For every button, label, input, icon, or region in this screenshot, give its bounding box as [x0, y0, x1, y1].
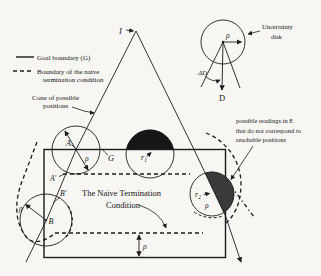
naive-title-line2: Condition: [106, 200, 141, 210]
r2-rho-label: ρ: [204, 201, 209, 210]
legend-naive-label-line2: termination condition: [43, 76, 104, 84]
delta-d-label: ΔD: [197, 69, 207, 77]
naive-title-leader-arrow: [139, 205, 166, 228]
r1-label: r1: [141, 153, 147, 163]
diagram-canvas: Goal boundary (G) Boundary of the naive …: [0, 0, 321, 276]
bottom-rho-label: ρ: [142, 242, 147, 251]
a-prime-label: A': [49, 174, 57, 183]
cone-label-leader-arrow: [72, 107, 94, 113]
r1-label-leader-arrow: [147, 153, 152, 158]
r2-label-sub: 2: [198, 194, 201, 200]
delta-d-arc-arrow: [205, 76, 220, 81]
direction-fan-right-line: [223, 42, 240, 88]
uncertainty-disk-label-line2: disk: [271, 33, 283, 40]
uncertainty-disk-label-line1: Uncertainty: [262, 23, 293, 30]
r1-label-sub: 1: [144, 157, 147, 163]
r2-label: r2: [195, 190, 201, 200]
apex-i-leader-arrow: [126, 30, 134, 31]
readings-label-line2: that do not correspond to: [236, 127, 301, 134]
circle-b-rho-label: ρ: [18, 204, 23, 213]
goal-g-label: G: [108, 153, 114, 163]
r1-dark-cap: [126, 130, 173, 150]
circle-a-rho-arrow: [65, 131, 88, 170]
legend-naive-label-line1: Boundary of the naive: [37, 68, 99, 76]
uncertainty-rho-label: ρ: [225, 31, 230, 40]
cone-label-line1: Cone of possible: [32, 94, 79, 102]
circle-a-rho-label: ρ: [84, 154, 89, 163]
readings-leader-arrow: [231, 146, 253, 180]
direction-d-arrow: [222, 42, 223, 90]
legend-goal-boundary-label: Goal boundary (G): [37, 54, 91, 62]
circle-b-rho-arrow: [26, 205, 47, 221]
b-prime-label: B': [60, 189, 67, 198]
r2-dark-wedge: [205, 172, 233, 212]
a-prime-leader: [59, 175, 64, 177]
point-b-label: B: [49, 217, 54, 226]
readings-label-line3: reachable positions: [236, 136, 286, 143]
point-a-label: A: [65, 139, 71, 148]
cone-left-edge-line: [26, 31, 136, 262]
r2-label-leader-arrow: [204, 194, 210, 195]
naive-title-line1: The Naive Termination: [82, 188, 162, 198]
uncertainty-disk-leader-arrow: [248, 31, 260, 34]
naive-boundary-left-dashed: [17, 142, 55, 242]
apex-i-label: I: [118, 26, 123, 36]
readings-label-line1: possible readings in E: [236, 117, 293, 124]
b-prime-leader: [53, 197, 60, 203]
direction-d-label: D: [219, 93, 225, 103]
cone-label-line2: positions: [43, 102, 69, 110]
